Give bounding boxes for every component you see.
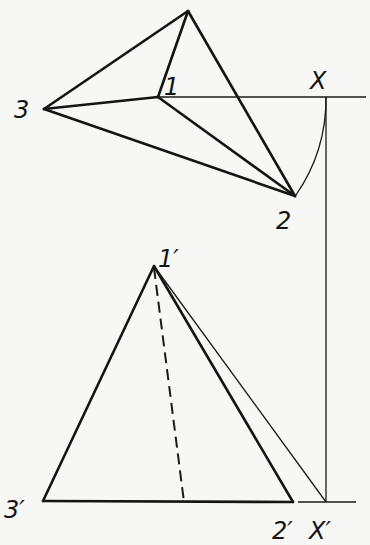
front-view bbox=[43, 266, 356, 502]
edge-3p-2p bbox=[43, 501, 293, 502]
label-2: 2 bbox=[276, 207, 291, 235]
label-x-prime: X′ bbox=[307, 517, 331, 545]
edge-1-2 bbox=[158, 97, 295, 196]
edge-3-2 bbox=[44, 109, 295, 196]
label-3: 3 bbox=[14, 96, 29, 124]
hidden-edge-1p bbox=[154, 268, 184, 502]
label-1: 1 bbox=[164, 73, 179, 101]
label-2-prime: 2′ bbox=[272, 517, 293, 545]
label-3-prime: 3′ bbox=[4, 496, 25, 524]
label-x: X bbox=[308, 67, 327, 95]
top-view bbox=[44, 11, 366, 196]
edge-3p-1p bbox=[43, 266, 154, 501]
revolution-arc bbox=[296, 97, 326, 195]
label-1-prime: 1′ bbox=[158, 245, 179, 273]
edge-1p-2p bbox=[154, 266, 293, 502]
edge-apex-2 bbox=[188, 11, 295, 196]
true-length-line-1p-xp bbox=[154, 266, 326, 502]
projection-diagram: 1 2 3 X 1′ 2′ 3′ X′ bbox=[0, 0, 370, 545]
